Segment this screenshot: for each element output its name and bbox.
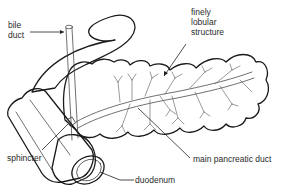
- pancreas-diagram: bile duct finely lobular structure sphin…: [0, 0, 285, 196]
- upper-curved-band: [32, 15, 135, 92]
- bile-duct-top: [66, 25, 73, 29]
- label-bile-duct-1: bile: [8, 20, 22, 30]
- sphincter-leader: [42, 124, 68, 150]
- label-lobular-2: lobular: [191, 17, 217, 27]
- main-pancreatic-duct-2: [78, 78, 254, 128]
- label-main-duct: main pancreatic duct: [193, 154, 272, 164]
- label-lobular-3: structure: [191, 27, 224, 37]
- lobular-leader: [164, 44, 186, 76]
- ductule-branches: [114, 64, 252, 134]
- label-duodenum: duodenum: [135, 175, 175, 185]
- label-bile-duct-2: duct: [8, 30, 25, 40]
- label-lobular-1: finely: [191, 7, 212, 17]
- label-sphincter: sphincter: [7, 153, 42, 163]
- duodenum-leader: [100, 172, 134, 180]
- bile-duct-arrowhead: [60, 30, 64, 34]
- main-pancreatic-duct: [76, 72, 252, 122]
- main-duct-leader: [138, 108, 190, 158]
